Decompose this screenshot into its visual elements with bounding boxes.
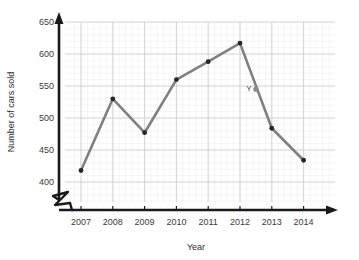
line-chart: 650600550500450400 200720082009201020112… (0, 0, 359, 260)
annotation-label: Y (246, 84, 252, 93)
y-tick-label: 500 (39, 113, 54, 123)
x-tick-label: 2010 (166, 217, 186, 227)
y-tick-label: 550 (39, 81, 54, 91)
x-axis-title: Year (187, 242, 205, 252)
y-tick-label: 450 (39, 145, 54, 155)
x-tick-label: 2014 (294, 217, 314, 227)
y-tick-label: 650 (39, 17, 54, 27)
data-point-marker (206, 59, 211, 64)
data-point-marker (142, 130, 147, 135)
annotation-point-marker (253, 87, 258, 92)
data-point-marker (269, 126, 274, 131)
y-tick-label: 400 (39, 177, 54, 187)
x-tick-label: 2012 (230, 217, 250, 227)
data-point-marker (301, 158, 306, 163)
x-tick-label: 2011 (199, 217, 218, 227)
data-point-marker (174, 77, 179, 82)
data-point-marker (110, 96, 115, 101)
y-axis-title: Number of cars sold (6, 72, 16, 153)
data-point-marker (238, 41, 243, 46)
chart-canvas: 650600550500450400 200720082009201020112… (0, 0, 359, 260)
x-tick-label: 2007 (71, 217, 91, 227)
x-tick-label: 2008 (103, 217, 123, 227)
x-tick-label: 2009 (135, 217, 155, 227)
data-point-marker (79, 168, 84, 173)
x-tick-label: 2013 (262, 217, 282, 227)
y-tick-label: 600 (39, 49, 54, 59)
